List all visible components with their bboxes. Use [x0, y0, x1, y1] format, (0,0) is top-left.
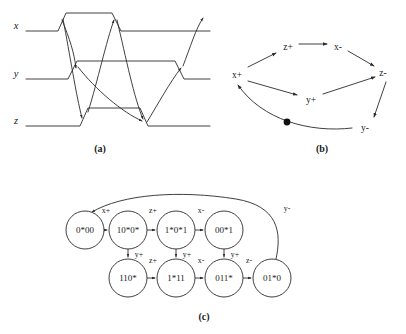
- stg-edge-xminus-to-zminus: [348, 51, 374, 66]
- stg-node-y-minus: y-: [361, 123, 369, 133]
- panel-b-stg: x+ z+ x- z- y+ y-: [232, 42, 387, 133]
- state-label-s2: 1*0*1: [165, 225, 188, 235]
- sg-edge-label-s0-s1: x+: [102, 206, 111, 215]
- panel-a-waveforms: x y z: [13, 13, 210, 126]
- stg-edge-xplus-to-zplus: [248, 53, 276, 67]
- sg-edge-label-s2-s5: y+: [183, 250, 192, 259]
- stg-edge-yminus-to-xplus: [238, 85, 352, 129]
- stg-node-y-plus: y+: [306, 95, 316, 105]
- causal-arc-zdown-to-ydown: [147, 68, 181, 122]
- stg-node-z-plus: z+: [283, 42, 293, 52]
- sg-edge-label-s2-s3: x-: [198, 206, 205, 215]
- waveform-y: [26, 61, 210, 79]
- state-label-s5: 1*11: [167, 273, 185, 283]
- state-label-s7: 01*0: [263, 273, 282, 283]
- signal-label-z: z: [13, 115, 18, 126]
- panel-c-state-graph: 0*00 10*0* 1*0*1 00*1 110* 1*11 011* 01*…: [66, 194, 291, 297]
- figure-container: x y z x+ z+ x- z- y+ y-: [0, 0, 406, 334]
- sg-edge-label-s6-s7: z-: [246, 256, 252, 265]
- figure-canvas: x y z x+ z+ x- z- y+ y-: [0, 0, 406, 334]
- stg-node-z-minus: z-: [379, 68, 386, 78]
- stg-edge-xplus-to-yplus: [248, 81, 297, 95]
- causal-arc-zup-to-xdown: [88, 20, 114, 112]
- stg-node-x-minus: x-: [334, 42, 342, 52]
- causal-arc-xdown-to-zup: [117, 20, 143, 119]
- stg-edge-yplus-to-zminus: [323, 77, 375, 94]
- sg-edge-label-s3-s6: y+: [231, 250, 240, 259]
- state-label-s1: 10*0*: [117, 225, 140, 235]
- state-label-s4: 110*: [119, 273, 137, 283]
- caption-panel-a: (a): [94, 143, 106, 155]
- sg-edge-label-s1-s4: y+: [135, 250, 144, 259]
- waveform-z: [26, 108, 210, 126]
- stg-edge-zminus-to-yminus: [374, 82, 386, 117]
- caption-panel-c: (c): [198, 311, 209, 323]
- stg-node-x-plus: x+: [232, 70, 242, 80]
- causal-arc-xup-to-ydown: [62, 20, 76, 68]
- signal-label-y: y: [13, 68, 19, 79]
- causal-arc-yup-to-zup: [78, 67, 142, 121]
- stg-token-dot: [284, 119, 291, 126]
- sg-edge-label-s5-s6: x-: [198, 256, 205, 265]
- sg-edge-label-s1-s2: z+: [149, 206, 157, 215]
- state-label-s3: 00*1: [215, 225, 233, 235]
- signal-label-x: x: [13, 20, 19, 31]
- waveform-x: [26, 13, 210, 31]
- causal-arc-ydown-to-xup: [183, 18, 203, 66]
- sg-edge-label-s7-s0: y-: [284, 204, 291, 213]
- sg-edge-label-s4-s5: z+: [149, 256, 157, 265]
- state-label-s6: 011*: [215, 273, 233, 283]
- state-label-s0: 0*00: [76, 225, 95, 235]
- caption-panel-b: (b): [316, 143, 328, 155]
